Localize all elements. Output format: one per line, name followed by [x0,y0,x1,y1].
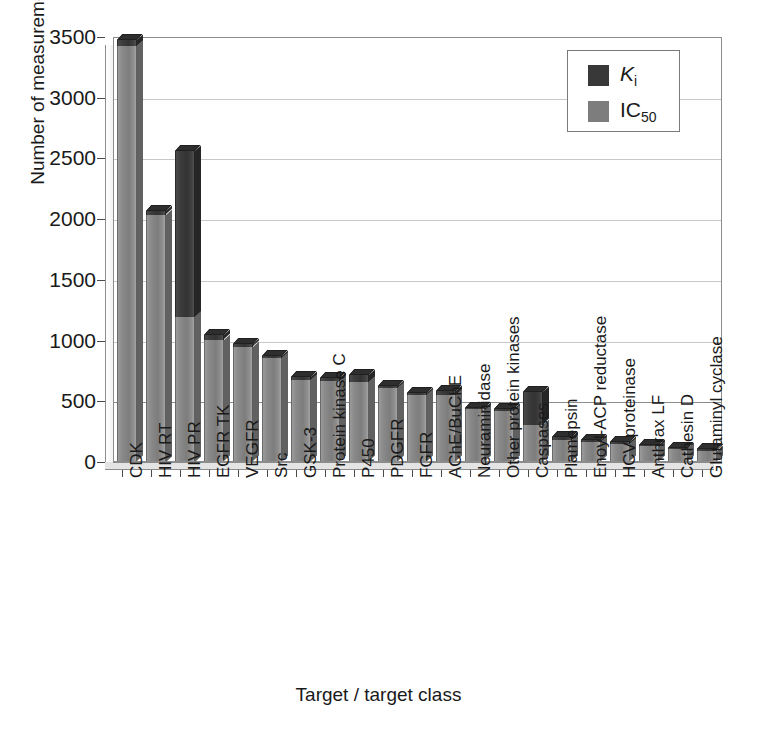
x-tick-mark [702,470,703,477]
x-tick-label: Neuraminidase [476,364,494,478]
y-tick-label: 3500 [0,26,96,47]
gridline [114,281,721,282]
legend-item-ic50: IC50 [588,99,657,124]
bar-segment-ki [378,386,398,388]
bar-column [117,40,137,461]
x-tick-label: Cathesin D [679,394,697,478]
x-tick-mark [528,470,529,477]
bar-column [175,151,195,461]
y-tick-mark [97,401,105,402]
x-tick-label: P450 [360,438,378,478]
x-tick-mark [412,470,413,477]
x-tick-mark [267,470,268,477]
x-tick-label: Enoyl-ACP reductase [592,316,610,478]
x-tick-mark [499,470,500,477]
y-tick-mark [97,341,105,342]
y-tick-mark [97,462,105,463]
legend: Ki IC50 [567,50,680,132]
y-tick-label: 1000 [0,330,96,351]
x-tick-label: EGFR TK [215,405,233,478]
bar-column [262,356,282,461]
bar-segment-ki [262,356,282,358]
legend-swatch-ki-icon [588,65,609,86]
y-tick-label: 500 [0,390,96,411]
bar-side-ic50 [137,40,143,461]
legend-label-ki: Ki [620,63,637,88]
x-tick-mark [615,470,616,477]
x-tick-label: Glutaminyl cyclase [708,336,726,478]
x-tick-mark [644,470,645,477]
bar-top-cap [291,371,316,377]
x-tick-mark [586,470,587,477]
x-tick-mark [441,470,442,477]
bar-segment-ic50 [117,46,137,461]
bar-side-ic50 [282,352,288,461]
bar-segment-ki [233,344,253,346]
bar-segment-ki [349,375,369,382]
gridline [114,220,721,221]
chart-figure: Number of measurements 05001000150020002… [0,0,757,731]
y-tick-label: 0 [0,451,96,472]
y-tick-mark [97,280,105,281]
y-tick-mark [97,158,105,159]
x-tick-mark [354,470,355,477]
y-tick-mark [97,98,105,99]
x-tick-label: Other protein kinases [505,316,523,478]
bar-segment-ki [146,211,166,214]
x-tick-label: Src [273,453,291,479]
x-tick-label: HIV PR [186,421,204,478]
y-tick-label: 1500 [0,269,96,290]
x-tick-label: GSK-3 [302,427,320,478]
bar-top-cap [117,34,142,40]
x-tick-mark [151,470,152,477]
bar-segment-ki [291,377,311,380]
y-tick-mark [97,37,105,38]
x-tick-mark [296,470,297,477]
x-tick-label: AChE/BuChE [447,375,465,478]
x-tick-mark [557,470,558,477]
x-tick-mark [122,470,123,477]
x-tick-label: VEGFR [244,419,262,478]
legend-item-ki: Ki [588,63,637,88]
x-tick-mark [383,470,384,477]
y-tick-label: 2500 [0,147,96,168]
bar-side-ki [195,145,201,316]
x-axis-title: Target / target class [0,684,757,706]
x-tick-label: Plamepsin [563,399,581,478]
bar-segment-ic50 [262,358,282,461]
x-tick-mark [238,470,239,477]
x-tick-label: FGFR [418,432,436,478]
bar-segment-ki [117,40,137,46]
plot-left-wall [105,45,113,470]
bar-segment-ki [175,151,195,317]
y-tick-mark [97,219,105,220]
x-tick-label: HIV RT [157,423,175,478]
y-tick-label: 3000 [0,87,96,108]
y-tick-label: 2000 [0,208,96,229]
x-tick-mark [325,470,326,477]
bar-segment-ki [204,335,224,339]
x-tick-label: Protein kinase C [331,353,349,478]
x-tick-mark [470,470,471,477]
x-tick-label: CDK [128,442,146,478]
x-tick-label: Anthrax LF [650,395,668,478]
x-tick-mark [180,470,181,477]
x-tick-mark [673,470,674,477]
x-tick-label: HCV proteinase [621,358,639,478]
gridline [114,159,721,160]
legend-swatch-ic50-icon [588,101,609,122]
x-tick-label: Caspases [534,402,552,478]
x-tick-mark [209,470,210,477]
bar-segment-ki [407,393,427,395]
legend-label-ic50: IC50 [620,99,657,124]
x-tick-label: PDGFR [389,419,407,479]
